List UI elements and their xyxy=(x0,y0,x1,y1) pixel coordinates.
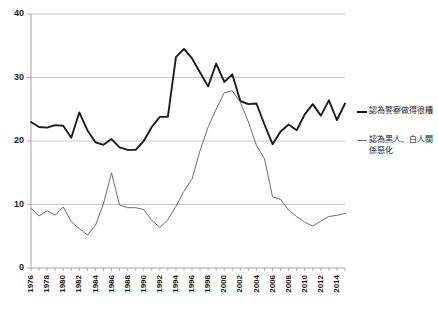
x-tickmarks-group xyxy=(31,268,345,271)
x-axis-tick-label: 2004 xyxy=(252,274,261,292)
x-axis-tick-label: 2002 xyxy=(235,274,244,292)
x-axis-tick-label: 2010 xyxy=(300,274,309,292)
x-axis-tick-label: 1988 xyxy=(123,274,132,292)
legend-swatch-race-icon xyxy=(357,140,367,141)
series-line-police xyxy=(31,49,345,150)
chart-container: 010203040 197619781980198219841986198819… xyxy=(0,0,438,321)
y-axis-tick-label: 40 xyxy=(14,8,24,18)
x-axis-tick-label: 1992 xyxy=(155,274,164,292)
x-axis-tick-label: 1984 xyxy=(91,274,100,292)
x-axis-tick-label: 1998 xyxy=(203,274,212,292)
x-axis-tick-label: 1996 xyxy=(187,274,196,292)
x-axis-tick-label: 2000 xyxy=(219,274,228,292)
legend-label-race: 認為黑人、白人關係惡化 xyxy=(369,135,437,157)
chart-legend: 認為警察做得很糟 認為黑人、白人關係惡化 xyxy=(357,106,437,174)
x-axis-tick-label: 2012 xyxy=(316,274,325,292)
y-axis-tick-label: 30 xyxy=(14,72,24,82)
x-axis-tick-label: 2006 xyxy=(268,274,277,292)
x-axis-tick-label: 1976 xyxy=(26,274,35,292)
y-axis-tick-label: 20 xyxy=(14,135,24,145)
gridlines-group xyxy=(31,14,345,205)
x-axis-tick-label: 1994 xyxy=(171,274,180,292)
x-axis-tick-label: 1980 xyxy=(58,274,67,292)
x-axis-tick-label: 1982 xyxy=(74,274,83,292)
x-axis-tick-label: 2014 xyxy=(332,274,341,292)
x-axis-labels-group: 1976197819801982198419861988199019921994… xyxy=(26,274,341,292)
legend-label-police: 認為警察做得很糟 xyxy=(369,106,433,117)
y-axis-labels-group: 010203040 xyxy=(14,8,24,272)
legend-item-police: 認為警察做得很糟 xyxy=(357,106,437,117)
y-axis-tick-label: 10 xyxy=(14,199,24,209)
x-axis-tick-label: 2008 xyxy=(284,274,293,292)
x-axis-tick-label: 1990 xyxy=(139,274,148,292)
legend-item-race: 認為黑人、白人關係惡化 xyxy=(357,135,437,157)
x-axis-tick-label: 1986 xyxy=(107,274,116,292)
legend-swatch-police-icon xyxy=(357,111,367,113)
series-line-race xyxy=(31,91,345,235)
x-axis-tick-label: 1978 xyxy=(42,274,51,292)
y-axis-tick-label: 0 xyxy=(19,262,24,272)
y-tickmarks-group xyxy=(27,14,31,268)
